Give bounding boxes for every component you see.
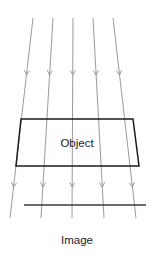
projection-rays-group [10,18,136,218]
image-label: Image [61,234,93,246]
ray-4 [93,18,104,218]
ray-3 [72,18,73,218]
ray-1 [10,18,33,218]
ray-5 [113,18,136,218]
object-label: Object [60,137,94,149]
projection-diagram-figure: Object Image [0,0,153,258]
ray-2 [41,18,53,218]
diagram-canvas: Object Image [0,0,153,258]
